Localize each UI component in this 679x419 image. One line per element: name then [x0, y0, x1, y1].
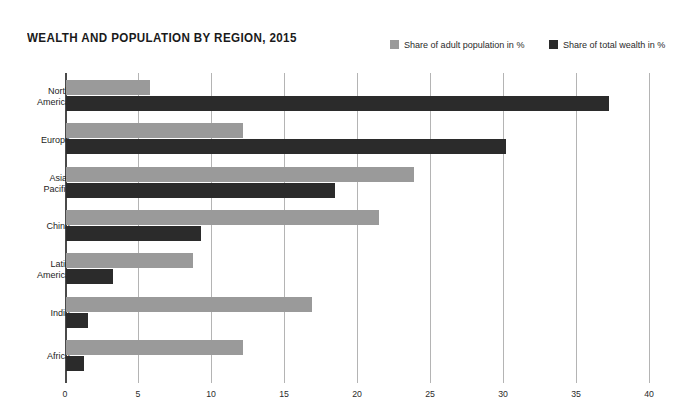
bar-population-china — [66, 210, 378, 225]
bar-wealth-china — [66, 226, 200, 241]
bar-wealth-asia-pacific — [66, 183, 335, 198]
bar-wealth-europe — [66, 139, 505, 154]
category-label-asia-pacific: Asia-Pacific — [13, 172, 70, 194]
category-label-china: China — [13, 220, 70, 231]
bar-population-asia-pacific — [66, 167, 413, 182]
bar-wealth-india — [66, 313, 88, 328]
bar-wealth-latin-america — [66, 269, 113, 284]
bar-population-europe — [66, 123, 243, 138]
category-label-europe: Europe — [13, 134, 70, 145]
bars-and-categories: NorthAmericaEuropeAsia-PacificChinaLatin… — [0, 0, 679, 419]
bar-population-india — [66, 297, 311, 312]
bar-population-latin-america — [66, 253, 193, 268]
bar-chart: 0510152025303540 NorthAmericaEuropeAsia-… — [0, 0, 679, 419]
category-label-north-america: NorthAmerica — [13, 85, 70, 107]
bar-population-north-america — [66, 80, 149, 95]
bar-population-africa — [66, 340, 243, 355]
category-label-africa: Africa — [13, 350, 70, 361]
bar-wealth-north-america — [66, 96, 609, 111]
bar-wealth-africa — [66, 356, 84, 371]
category-label-india: India — [13, 307, 70, 318]
category-label-latin-america: LatinAmerica — [13, 258, 70, 280]
